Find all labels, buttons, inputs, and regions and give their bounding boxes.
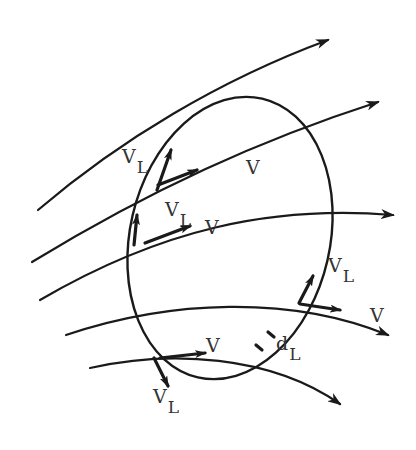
line-element-tick-1 — [256, 345, 262, 350]
streamline-loop-diagram: VL V VL V VL V dL V VL — [0, 0, 416, 450]
velocity-vector-right — [300, 304, 340, 310]
label-v-bottom: V — [205, 334, 220, 356]
label-vl-mid: VL — [164, 198, 191, 230]
velocity-vector-bottom — [160, 353, 205, 358]
label-v-right: V — [369, 304, 384, 326]
label-v-top: V — [245, 156, 260, 178]
line-element-tick-2 — [268, 332, 274, 337]
streamline-5 — [90, 358, 340, 404]
tangential-vector-mid — [134, 215, 137, 245]
label-vl-right: VL — [327, 254, 354, 286]
closed-loop — [100, 76, 359, 400]
label-vl-top: VL — [121, 145, 148, 177]
label-dl: dL — [276, 332, 300, 364]
streamline-2 — [32, 102, 378, 262]
label-vl-bottom: VL — [152, 385, 179, 417]
tangential-vector-right — [299, 276, 313, 303]
label-v-mid: V — [204, 216, 219, 238]
